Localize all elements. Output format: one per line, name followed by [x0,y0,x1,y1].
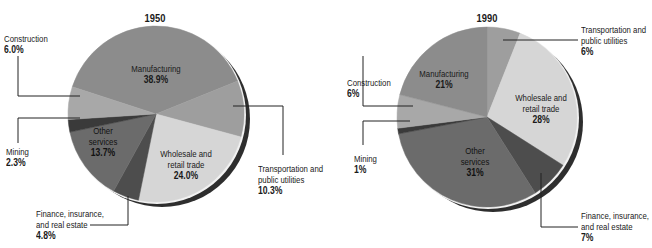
label-construction-1950: Construction 6.0% [4,33,48,55]
label-finance-1950: Finance, insurance, and real estate 4.8% [36,208,104,241]
label-other-services-1990: Other services 31% [455,145,496,178]
leader-construction-1950 [18,56,80,96]
pie-1990-title: 1990 [470,12,504,24]
label-manufacturing-1950: Manufacturing 38.9% [128,63,184,85]
chart-stage: 1950 Manufacturing 38.9% Construction 6.… [0,0,652,248]
label-transport-1990: Transportation and public utilities 6% [581,24,646,57]
label-mining-1950: Mining 2.3% [6,146,29,168]
pie-1950-title: 1950 [138,12,172,24]
label-mining-1990: Mining 1% [354,153,377,175]
label-transport-1950: Transportation and public utilities 10.3… [258,163,323,196]
label-wholesale-1990: Wholesale and retail trade 28% [510,92,572,125]
label-finance-1990: Finance, insurance, and real estate 7% [581,210,649,243]
label-manufacturing-1990: Manufacturing 21% [416,68,472,90]
label-wholesale-1950: Wholesale and retail trade 24.0% [155,148,217,181]
label-other-services-1950: Other services 13.7% [83,125,124,158]
label-construction-1990: Construction 6% [347,77,391,99]
